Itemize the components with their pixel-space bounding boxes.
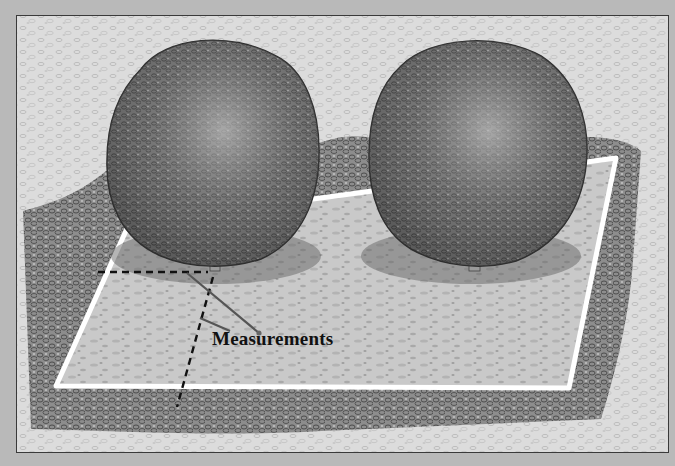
illustration-frame: Measurements (16, 15, 669, 453)
garden-illustration (17, 16, 668, 452)
measurements-label: Measurements (212, 328, 333, 350)
left-tree (107, 40, 319, 271)
right-tree (369, 41, 587, 271)
